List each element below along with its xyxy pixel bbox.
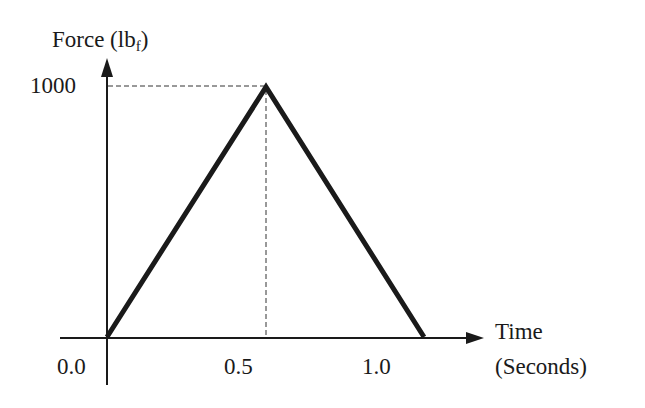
x-axis-arrow-icon <box>466 332 484 344</box>
x-tick-1-0: 1.0 <box>362 355 391 378</box>
x-axis-label-line2: (Seconds) <box>495 355 587 378</box>
y-axis-label: Force (lbf) <box>52 28 148 54</box>
y-axis-arrow-icon <box>101 58 113 77</box>
force-time-chart <box>0 0 645 408</box>
x-axis-label-line1: Time <box>495 320 543 343</box>
y-tick-1000: 1000 <box>30 74 76 97</box>
x-tick-0: 0.0 <box>57 355 86 378</box>
x-tick-0-5: 0.5 <box>224 355 253 378</box>
